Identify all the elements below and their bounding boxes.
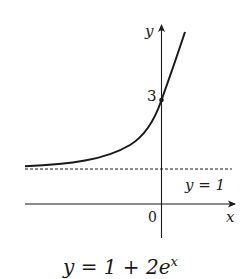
equation-text: y = 1 + 2e: [62, 255, 171, 279]
equation-caption: y = 1 + 2ex: [62, 254, 179, 279]
origin-label: 0: [148, 209, 157, 225]
graph-canvas: y 3 0 x y = 1 y = 1 + 2ex: [0, 0, 244, 279]
x-axis-label: x: [226, 208, 235, 226]
equation-exponent: x: [171, 254, 179, 269]
asymptote-label: y = 1: [184, 176, 225, 194]
y-axis-label: y: [144, 22, 154, 40]
y-intercept-label: 3: [147, 87, 157, 105]
y-intercept-point: [159, 98, 164, 103]
